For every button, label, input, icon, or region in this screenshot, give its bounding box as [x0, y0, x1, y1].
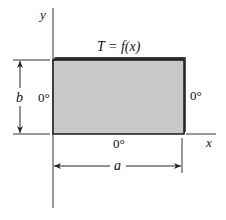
top-boundary-label: T = f(x) [97, 39, 141, 55]
left-boundary-label: 0° [38, 90, 50, 105]
height-label: b [16, 90, 23, 105]
plate [53, 60, 184, 134]
width-label: a [114, 158, 121, 173]
plate-diagram: y x T = f(x) 0° 0° 0° b a [0, 0, 226, 220]
x-axis-label: x [205, 135, 212, 150]
y-axis-label: y [38, 7, 46, 22]
bottom-boundary-label: 0° [113, 136, 125, 151]
right-boundary-label: 0° [190, 88, 202, 103]
